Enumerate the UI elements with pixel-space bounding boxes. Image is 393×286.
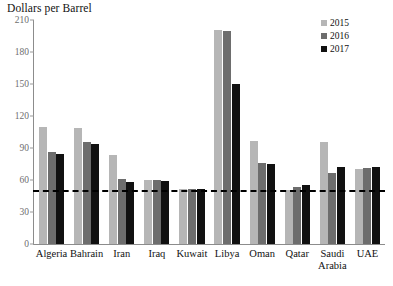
bar-2016[interactable]	[83, 142, 91, 244]
bar-2015[interactable]	[74, 128, 82, 244]
bar-group	[109, 20, 134, 244]
bar-2016[interactable]	[188, 189, 196, 244]
legend-label: 2015	[330, 18, 349, 28]
bar-2015[interactable]	[285, 190, 293, 244]
y-axis-tick-mark	[30, 244, 34, 245]
bar-2015[interactable]	[250, 141, 258, 244]
bar-2017[interactable]	[267, 164, 275, 244]
y-axis-tick-label: 60	[20, 175, 30, 185]
bar-group	[285, 20, 310, 244]
y-axis-tick-mark	[30, 84, 34, 85]
bar-2017[interactable]	[197, 189, 205, 244]
bar-2017[interactable]	[302, 185, 310, 244]
y-axis-tick-mark	[30, 20, 34, 21]
y-axis-tick-mark	[30, 212, 34, 213]
y-axis-tick-mark	[30, 180, 34, 181]
bar-group	[74, 20, 99, 244]
bar-2015[interactable]	[320, 142, 328, 244]
bar-2016[interactable]	[223, 31, 231, 244]
bar-2017[interactable]	[372, 167, 380, 244]
x-axis-line	[33, 244, 385, 245]
legend-swatch-icon	[321, 46, 327, 52]
bar-2015[interactable]	[109, 155, 117, 244]
y-axis-tick-label: 210	[15, 15, 29, 25]
bar-2015[interactable]	[214, 30, 222, 244]
bar-group	[250, 20, 275, 244]
bar-2017[interactable]	[56, 154, 64, 244]
y-axis-tick-label: 30	[20, 207, 30, 217]
bar-2016[interactable]	[258, 163, 266, 244]
y-axis-tick-mark	[30, 148, 34, 149]
y-axis-tick-label: 0	[24, 239, 29, 249]
reference-line	[33, 190, 385, 192]
bar-group	[179, 20, 204, 244]
bar-2016[interactable]	[363, 168, 371, 244]
legend-label: 2017	[330, 44, 349, 54]
bar-group	[144, 20, 169, 244]
legend-swatch-icon	[321, 20, 327, 26]
y-axis-tick-label: 180	[15, 47, 29, 57]
legend-item-2017[interactable]: 2017	[321, 42, 349, 55]
bar-2015[interactable]	[355, 169, 363, 244]
bar-group	[39, 20, 64, 244]
legend-item-2015[interactable]: 2015	[321, 16, 349, 29]
bar-2015[interactable]	[39, 127, 47, 244]
y-axis-tick-label: 120	[15, 111, 29, 121]
legend-item-2016[interactable]: 2016	[321, 29, 349, 42]
y-axis-line	[33, 20, 34, 244]
legend-label: 2016	[330, 31, 349, 41]
bar-2016[interactable]	[48, 152, 56, 244]
bar-group	[355, 20, 380, 244]
bar-2017[interactable]	[232, 84, 240, 244]
bar-group	[214, 20, 239, 244]
legend-swatch-icon	[321, 33, 327, 39]
x-axis-label: UAE	[346, 248, 389, 260]
y-axis-tick-mark	[30, 116, 34, 117]
y-axis-tick-label: 150	[15, 79, 29, 89]
y-axis-tick-mark	[30, 52, 34, 53]
bar-2017[interactable]	[337, 167, 345, 244]
bar-2016[interactable]	[293, 187, 301, 244]
chart-legend: 201520162017	[321, 16, 349, 55]
bar-2016[interactable]	[328, 173, 336, 244]
chart-container: Dollars per Barrel 0306090120150180210Al…	[0, 0, 393, 286]
y-axis-tick-label: 90	[20, 143, 30, 153]
bar-2015[interactable]	[179, 189, 187, 244]
bar-2017[interactable]	[91, 144, 99, 244]
chart-title: Dollars per Barrel	[7, 2, 92, 14]
